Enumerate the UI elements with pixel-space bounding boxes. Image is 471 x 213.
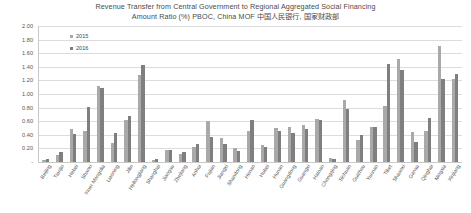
x-axis-label-cell: Shaanxi	[394, 164, 408, 213]
bar-2016[interactable]	[387, 64, 390, 162]
x-axis-label-cell: Jiangsu	[162, 164, 176, 213]
bar-2016[interactable]	[141, 65, 144, 162]
x-axis-label-cell: Guizhou	[353, 164, 367, 213]
x-axis-label-cell: Fujian	[203, 164, 217, 213]
bar-group	[380, 26, 394, 162]
x-axis-label-cell: Sichuan	[339, 164, 353, 213]
x-axis-label-cell: Hainan	[312, 164, 326, 213]
y-axis-tick-label: 1.40	[0, 64, 33, 70]
x-axis-label-cell: Liaoning	[107, 164, 121, 213]
x-axis-label-cell: Guangxi	[298, 164, 312, 213]
x-axis-label-cell: Shanghai	[148, 164, 162, 213]
bar-group	[394, 26, 408, 162]
y-axis-tick-label: 1.80	[0, 37, 33, 43]
bar-group	[325, 26, 339, 162]
bar-group	[271, 26, 285, 162]
chart-container: Revenue Transfer from Central Government…	[0, 0, 471, 213]
bar-group	[230, 26, 244, 162]
chart-title-line-1: Revenue Transfer from Central Government…	[0, 2, 471, 12]
bar-2016[interactable]	[360, 135, 363, 162]
y-axis-tick-label: 0.80	[0, 105, 33, 111]
x-axis-tick-label-text: Zhejiang	[173, 163, 189, 183]
x-axis-tick-label-text: Guizhou	[350, 163, 365, 183]
bar-group	[94, 26, 108, 162]
x-axis-label-cell: Heilongjiang	[134, 164, 148, 213]
y-axis-tick-label: 1.20	[0, 77, 33, 83]
bar-group	[257, 26, 271, 162]
x-axis-tick-label-text: Jiangxi	[216, 163, 230, 180]
bar-group	[53, 26, 67, 162]
bar-2016[interactable]	[278, 131, 281, 162]
y-axis-tick-label: 0.60	[0, 118, 33, 124]
bar-group	[366, 26, 380, 162]
x-axis-label-cell: Yunnan	[366, 164, 380, 213]
bar-2016[interactable]	[100, 88, 103, 162]
x-axis-label-cell: Tianjin	[53, 164, 67, 213]
y-axis-tick-label: -	[0, 159, 33, 165]
x-axis-tick-label-text: Guangxi	[296, 163, 311, 183]
x-axis-tick-label-text: Liaoning	[105, 163, 120, 183]
x-axis-tick-label-text: Jilin	[124, 163, 134, 174]
x-axis-tick-label-text: Fujian	[203, 163, 216, 178]
x-axis-tick-label-text: Beijing	[39, 163, 52, 179]
bar-group	[134, 26, 148, 162]
x-axis-tick-label-text: Hubei	[258, 163, 270, 178]
bar-2016[interactable]	[319, 120, 322, 162]
bar-group	[216, 26, 230, 162]
bar-2016[interactable]	[441, 79, 444, 162]
bar-group	[435, 26, 449, 162]
legend-label: 2016	[76, 45, 88, 51]
x-axis-label-cell: Chongqing	[325, 164, 339, 213]
x-axis-tick-label-text: Xinjiang	[446, 163, 461, 182]
bar-2016[interactable]	[87, 107, 90, 162]
x-axis-label-cell: Shandong	[230, 164, 244, 213]
x-axis-label-cell: Beijing	[39, 164, 53, 213]
x-axis-label-cell: Qinghai	[421, 164, 435, 213]
legend-item-2015[interactable]: 2015	[70, 33, 88, 39]
bar-2016[interactable]	[210, 137, 213, 162]
y-axis-tick-label: 0.20	[0, 145, 33, 151]
bar-group	[285, 26, 299, 162]
bar-2016[interactable]	[346, 109, 349, 162]
x-axis-tick-label-text: Anhui	[190, 163, 202, 177]
x-axis-label-cell: Xinjiang	[448, 164, 462, 213]
bar-group	[175, 26, 189, 162]
bar-group	[39, 26, 53, 162]
bar-2016[interactable]	[455, 74, 458, 162]
bar-group	[407, 26, 421, 162]
bar-group	[162, 26, 176, 162]
legend-swatch-icon	[70, 35, 73, 38]
bar-group	[312, 26, 326, 162]
x-axis-label-cell: Gansu	[407, 164, 421, 213]
x-axis-label-cell: Hebei	[66, 164, 80, 213]
x-axis-label-cell: Henan	[244, 164, 258, 213]
x-axis-label-cell: Hubei	[257, 164, 271, 213]
legend-item-2016[interactable]: 2016	[70, 45, 88, 51]
bar-group	[421, 26, 435, 162]
bar-group	[189, 26, 203, 162]
bar-group	[121, 26, 135, 162]
bar-series-area	[39, 26, 462, 162]
x-axis-label-cell: Tibet	[380, 164, 394, 213]
chart-legend: 20152016	[70, 33, 88, 57]
legend-swatch-icon	[70, 47, 73, 50]
x-axis-tick-label-text: Hebei	[67, 163, 79, 178]
bar-2016[interactable]	[400, 70, 403, 162]
legend-label: 2015	[76, 33, 88, 39]
x-axis-tick-label-text: Tianjin	[53, 163, 66, 179]
bar-2016[interactable]	[428, 118, 431, 162]
bar-group	[203, 26, 217, 162]
bar-2016[interactable]	[128, 116, 131, 162]
x-axis-label-cell: Guangdong	[285, 164, 299, 213]
y-axis-tick-label: 0.40	[0, 132, 33, 138]
x-axis-label-cell: Jiangxi	[216, 164, 230, 213]
x-axis-tick-label-text: Shaanxi	[392, 163, 407, 182]
bar-2016[interactable]	[373, 127, 376, 162]
x-axis-tick-label-text: Gansu	[407, 163, 420, 179]
x-axis-tick-label-text: Tibet	[382, 163, 393, 176]
x-axis-label-cell: Ningxia	[435, 164, 449, 213]
bar-2016[interactable]	[250, 120, 253, 162]
x-axis-labels: BeijingTianjinHebeiShanxiInner MongoliaL…	[39, 164, 462, 213]
y-axis-tick-label: 2.00	[0, 23, 33, 29]
x-axis-label-cell: Anhui	[189, 164, 203, 213]
